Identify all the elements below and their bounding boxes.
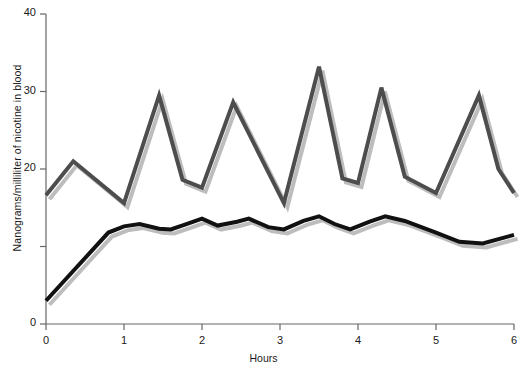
x-tick-label: 6 xyxy=(502,334,526,346)
x-tick-label: 4 xyxy=(346,334,370,346)
y-tick-label: 0 xyxy=(10,316,36,328)
x-axis-title: Hours xyxy=(0,352,527,364)
x-tick-label: 3 xyxy=(268,334,292,346)
x-tick-label: 1 xyxy=(112,334,136,346)
axis-ticks xyxy=(40,14,514,330)
y-tick-label: 40 xyxy=(10,6,36,18)
plot-area xyxy=(0,0,527,372)
y-tick-label: 20 xyxy=(10,161,36,173)
y-tick-label: 30 xyxy=(10,84,36,96)
nicotine-line-chart: Nanograms/milliliter of nicotine in bloo… xyxy=(0,0,527,372)
axis-lines xyxy=(46,14,514,324)
x-tick-label: 5 xyxy=(424,334,448,346)
nicotine-patch-user-line xyxy=(46,216,514,300)
series-shadows xyxy=(50,71,518,305)
nicotine-patch-user-shadow xyxy=(50,220,518,304)
x-tick-label: 2 xyxy=(190,334,214,346)
cigarette-smoker-shadow xyxy=(50,71,518,207)
x-tick-label: 0 xyxy=(34,334,58,346)
